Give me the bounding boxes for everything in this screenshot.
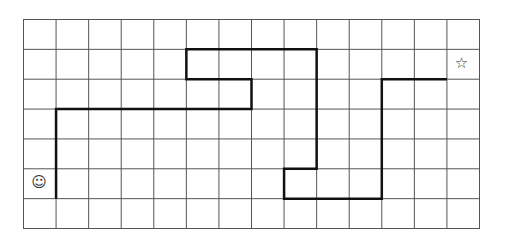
smiley-face-icon: ☺ bbox=[31, 175, 47, 190]
grid-lines bbox=[23, 19, 480, 229]
maze-grid: ☺ ☆ bbox=[23, 19, 480, 229]
star-icon: ☆ bbox=[455, 56, 468, 71]
